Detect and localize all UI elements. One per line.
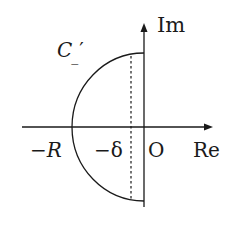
diagram-canvas: Im C_′ −R −δ O Re <box>0 0 238 225</box>
imaginary-axis-label: Im <box>157 15 185 36</box>
re-text: Re <box>193 138 220 162</box>
contour-label: C_′ <box>57 40 84 60</box>
real-axis-arrow-icon <box>204 124 213 131</box>
imaginary-axis-arrow-icon <box>141 23 148 32</box>
real-axis-label: Re <box>193 140 220 160</box>
origin-text: O <box>148 138 164 162</box>
minus-delta-label: −δ <box>94 140 123 160</box>
minus-R-text: −R <box>30 138 62 162</box>
contour-label-prime: ′ <box>79 38 84 62</box>
contour-figure <box>0 0 238 225</box>
minus-R-label: −R <box>30 140 62 160</box>
origin-label: O <box>148 140 164 160</box>
im-text: Im <box>157 13 185 37</box>
minus-delta-text: −δ <box>94 138 123 162</box>
contour-label-sub: _ <box>71 48 78 64</box>
